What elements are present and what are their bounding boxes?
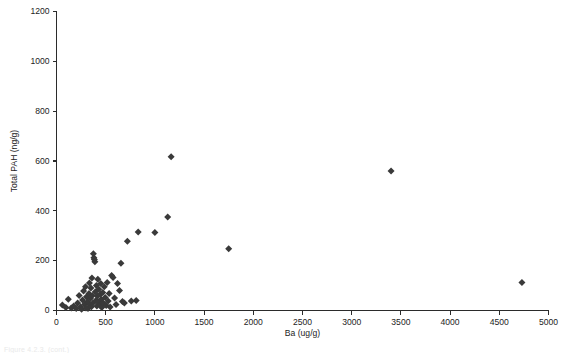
data-point-group <box>59 153 526 312</box>
data-point-marker <box>116 287 123 294</box>
y-tick-label: 1200 <box>30 6 49 16</box>
data-point-marker <box>151 229 158 236</box>
figure-container: 020040060080010001200 050010001500200025… <box>0 0 561 353</box>
x-tick-label: 4000 <box>441 317 460 327</box>
data-point-marker <box>168 153 175 160</box>
x-tick-label: 4500 <box>490 317 509 327</box>
figure-caption: Figure 4.2.3. (cont.) <box>4 346 69 353</box>
data-point-marker <box>114 280 121 287</box>
y-tick-label: 400 <box>35 206 50 216</box>
x-tick-label: 2500 <box>293 317 312 327</box>
data-point-marker <box>164 214 171 221</box>
y-tick-label: 800 <box>35 106 50 116</box>
data-point-marker <box>111 295 118 302</box>
x-tick-label: 0 <box>54 317 59 327</box>
x-axis-ticks: 0500100015002000250030003500400045005000 <box>54 311 558 327</box>
data-point-marker <box>518 279 525 286</box>
x-axis-title: Ba (ug/g) <box>285 328 320 338</box>
axes-group <box>57 12 549 311</box>
y-axis-title: Total PAH (ng/g) <box>9 130 19 193</box>
data-point-marker <box>388 167 395 174</box>
x-tick-label: 3500 <box>391 317 410 327</box>
x-tick-label: 1500 <box>195 317 214 327</box>
x-tick-label: 2000 <box>244 317 263 327</box>
x-tick-label: 500 <box>99 317 114 327</box>
data-point-marker <box>65 296 72 303</box>
data-point-marker <box>117 260 124 267</box>
x-tick-label: 3000 <box>342 317 361 327</box>
scatter-plot: 020040060080010001200 050010001500200025… <box>0 0 561 353</box>
x-tick-label: 1000 <box>145 317 164 327</box>
data-point-marker <box>124 238 131 245</box>
y-tick-label: 600 <box>35 156 50 166</box>
y-axis-ticks: 020040060080010001200 <box>30 6 56 315</box>
y-tick-label: 0 <box>45 305 50 315</box>
y-tick-label: 1000 <box>30 56 49 66</box>
data-point-marker <box>225 245 232 252</box>
y-tick-label: 200 <box>35 255 50 265</box>
data-point-marker <box>133 297 140 304</box>
x-tick-label: 5000 <box>539 317 558 327</box>
data-point-marker <box>135 229 142 236</box>
